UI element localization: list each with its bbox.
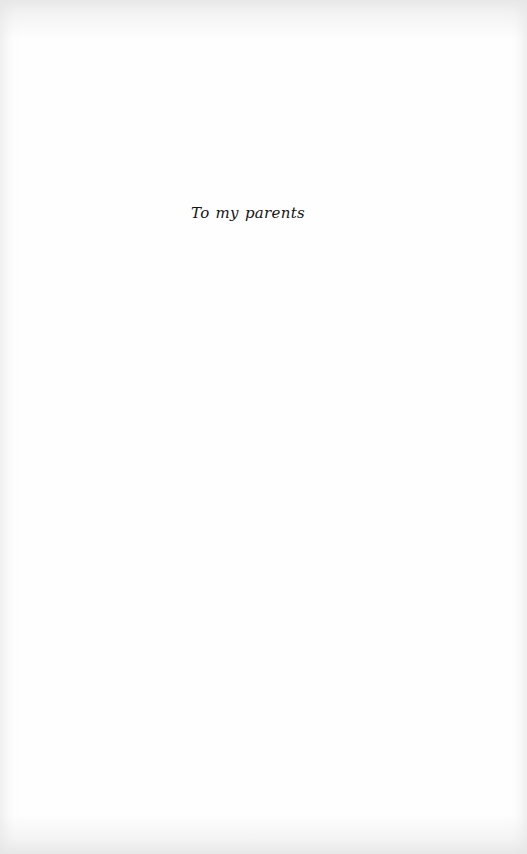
scan-shading-bottom — [0, 814, 527, 854]
book-page: To my parents — [0, 0, 527, 854]
scan-shading-top — [0, 0, 527, 40]
dedication-text: To my parents — [191, 203, 305, 223]
